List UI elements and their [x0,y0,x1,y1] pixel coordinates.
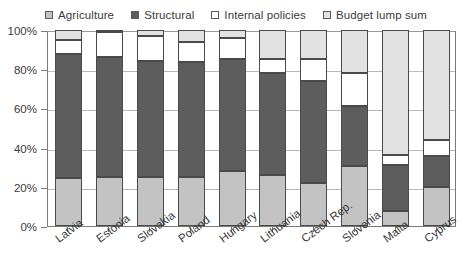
bar-column[interactable] [423,32,450,226]
bar-segment-structural[interactable] [341,106,368,166]
bar-column[interactable] [259,32,286,226]
legend-swatch-icon [131,11,139,19]
bar-segment-budget-lump-sum[interactable] [300,30,327,59]
bar-segment-budget-lump-sum[interactable] [96,30,123,32]
legend-item-label: Structural [144,9,194,21]
bar-segment-budget-lump-sum[interactable] [423,30,450,140]
legend-item-agriculture[interactable]: Agriculture [45,9,114,21]
bar-segment-budget-lump-sum[interactable] [382,30,409,155]
bar-column[interactable] [137,32,164,226]
legend-swatch-icon [45,11,53,19]
y-axis-tick-label: 100% [8,25,37,37]
bar-segment-budget-lump-sum[interactable] [55,30,82,40]
bar-segment-structural[interactable] [96,57,123,177]
bar-segment-structural[interactable] [300,81,327,183]
y-axis: 0%20%40%60%80%100% [0,31,47,227]
bar-column[interactable] [55,32,82,226]
bar-segment-budget-lump-sum[interactable] [341,30,368,73]
bar-column[interactable] [341,32,368,226]
y-axis-tick-label: 20% [14,182,37,194]
bar-segment-internal-policies[interactable] [137,36,164,61]
bar-segment-budget-lump-sum[interactable] [137,30,164,36]
bar-segment-budget-lump-sum[interactable] [259,30,286,59]
bar-segment-internal-policies[interactable] [55,40,82,54]
y-axis-tick-label: 60% [14,103,37,115]
bar-segment-budget-lump-sum[interactable] [219,30,246,38]
bar-segment-structural[interactable] [259,73,286,175]
bar-segment-structural[interactable] [178,62,205,177]
bar-series-container [48,32,455,226]
bar-segment-internal-policies[interactable] [219,38,246,60]
legend-item-label: Agriculture [58,9,114,21]
legend-item-internal-policies[interactable]: Internal policies [211,9,306,21]
y-axis-tick-label: 80% [14,64,37,76]
bar-column[interactable] [96,32,123,226]
bar-column[interactable] [382,32,409,226]
bar-segment-internal-policies[interactable] [259,59,286,73]
plot-area [47,31,456,227]
bar-segment-internal-policies[interactable] [382,155,409,165]
bar-column[interactable] [300,32,327,226]
legend-item-label: Budget lump sum [336,9,427,21]
legend-item-structural[interactable]: Structural [131,9,194,21]
bar-segment-structural[interactable] [219,59,246,171]
stacked-bar-chart: AgricultureStructuralInternal policiesBu… [0,0,472,279]
y-axis-tick-mark [41,227,47,228]
bar-segment-structural[interactable] [382,165,409,211]
bar-column[interactable] [219,32,246,226]
legend-item-label: Internal policies [224,9,306,21]
bar-segment-structural[interactable] [137,61,164,177]
y-axis-tick-label: 40% [14,143,37,155]
bar-segment-internal-policies[interactable] [300,59,327,81]
bar-segment-internal-policies[interactable] [178,42,205,63]
bar-segment-internal-policies[interactable] [423,140,450,157]
bar-segment-structural[interactable] [423,156,450,186]
chart-legend: AgricultureStructuralInternal policiesBu… [0,9,472,21]
bar-segment-internal-policies[interactable] [341,73,368,106]
bar-segment-structural[interactable] [55,54,82,178]
legend-item-budget-lump-sum[interactable]: Budget lump sum [323,9,427,21]
legend-swatch-icon [211,11,219,19]
legend-swatch-icon [323,11,331,19]
bar-segment-internal-policies[interactable] [96,32,123,57]
bar-segment-budget-lump-sum[interactable] [178,30,205,42]
y-axis-tick-label: 0% [20,221,37,233]
bar-column[interactable] [178,32,205,226]
